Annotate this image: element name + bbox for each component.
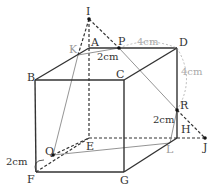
label-E: E <box>86 140 94 153</box>
point-J <box>203 136 207 140</box>
label-B: B <box>27 71 35 84</box>
edge-DC <box>124 48 177 80</box>
label-L: L <box>166 143 174 156</box>
edge-EF-hidden <box>36 138 89 172</box>
label-D: D <box>179 36 188 49</box>
label-R: R <box>180 99 189 112</box>
label-C: C <box>116 68 124 81</box>
measure-AP: 2cm <box>97 51 119 62</box>
section-PR <box>119 48 177 110</box>
measure-DR: 4cm <box>181 66 203 77</box>
label-I: I <box>86 5 90 18</box>
cube-diagram: I A K P D B C R H J L E Q F G 2cm 4cm 4c… <box>0 0 217 189</box>
edge-BF <box>35 80 36 172</box>
label-J: J <box>202 141 207 154</box>
label-F: F <box>27 173 35 186</box>
label-H: H <box>181 123 191 136</box>
label-G: G <box>120 174 129 187</box>
measure-FQ: 2cm <box>6 156 28 167</box>
label-P: P <box>118 35 126 48</box>
label-Q: Q <box>45 145 54 158</box>
measure-RH: 2cm <box>153 114 175 125</box>
measure-PD: 4cm <box>137 36 159 47</box>
section-KQ <box>53 55 78 155</box>
edge-AB <box>35 48 89 80</box>
label-K: K <box>69 43 78 56</box>
label-A: A <box>90 36 100 49</box>
segment-QE <box>53 138 89 155</box>
point-R <box>175 108 179 112</box>
